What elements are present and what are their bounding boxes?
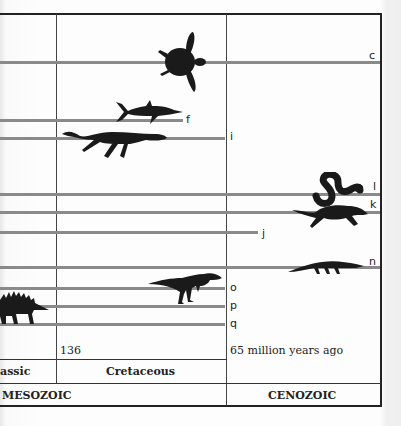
lineage-label-f: f — [186, 114, 190, 125]
lineage-label-l: l — [373, 181, 376, 192]
top-border — [0, 13, 382, 15]
lineage-label-k: k — [370, 199, 376, 210]
era-label-cenozoic: CENOZOIC — [268, 389, 336, 402]
era-row-top-rule — [0, 383, 381, 384]
crocodile-icon — [288, 258, 364, 276]
right-border — [380, 13, 382, 407]
period-label-cretaceous: Cretaceous — [106, 365, 175, 378]
bottom-border — [0, 405, 382, 407]
ichthyosaur-icon — [114, 98, 184, 126]
lineage-label-j: j — [262, 228, 265, 239]
period-row-top-rule — [0, 359, 227, 360]
stegosaur-icon — [0, 290, 50, 326]
lineage-label-c: c — [369, 50, 375, 61]
plesiosaur-icon — [62, 128, 168, 160]
sea-turtle-icon — [156, 30, 212, 94]
lineage-line-j — [0, 231, 258, 234]
boundary-label-65: 65 million years ago — [230, 344, 343, 357]
lineage-label-p: p — [230, 300, 237, 311]
lineage-label-q: q — [230, 318, 237, 329]
period-divider — [56, 359, 57, 383]
theropod-dinosaur-icon — [148, 272, 224, 304]
era-label-mesozoic: MESOZOIC — [2, 389, 72, 402]
lineage-label-o: o — [230, 282, 237, 293]
lizard-icon — [292, 202, 370, 232]
boundary-label-136: 136 — [60, 344, 81, 357]
period-label-jurassic: assic — [0, 365, 30, 378]
diagram-sheet: c f i l k j n o p q — [0, 0, 401, 426]
lineage-label-i: i — [230, 131, 233, 142]
lineage-label-n: n — [369, 256, 376, 267]
